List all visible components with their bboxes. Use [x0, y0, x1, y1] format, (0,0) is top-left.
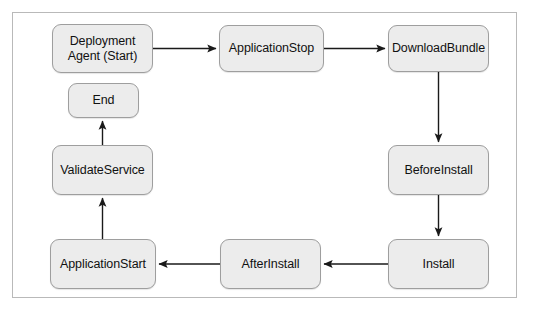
node-download-bundle[interactable]: DownloadBundle: [388, 25, 489, 72]
node-validate-service[interactable]: ValidateService: [52, 145, 153, 195]
node-label: ValidateService: [56, 163, 148, 178]
node-label: Deployment Agent (Start): [64, 34, 142, 64]
node-label: Install: [419, 257, 459, 272]
node-after-install[interactable]: AfterInstall: [220, 239, 321, 289]
node-label: DownloadBundle: [388, 41, 489, 56]
node-application-stop[interactable]: ApplicationStop: [219, 25, 324, 72]
node-deployment-agent-start[interactable]: Deployment Agent (Start): [52, 24, 153, 73]
node-end[interactable]: End: [68, 83, 139, 118]
diagram-canvas: Deployment Agent (Start) ApplicationStop…: [0, 0, 536, 313]
node-install[interactable]: Install: [388, 239, 489, 289]
node-label: End: [89, 93, 119, 108]
node-label: ApplicationStart: [56, 257, 150, 272]
node-application-start[interactable]: ApplicationStart: [50, 239, 156, 289]
node-before-install[interactable]: BeforeInstall: [388, 145, 489, 195]
node-label: AfterInstall: [238, 257, 304, 272]
node-label: BeforeInstall: [400, 163, 476, 178]
node-label: ApplicationStop: [225, 41, 318, 56]
